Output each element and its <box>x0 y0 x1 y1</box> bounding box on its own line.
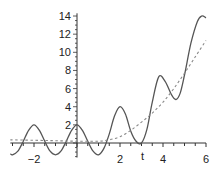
y-tick-label: 12 <box>59 28 71 40</box>
x-tick-label: −2 <box>28 153 41 165</box>
series-group <box>10 16 206 155</box>
y-tick-label: 2 <box>65 119 71 131</box>
y-tick-label: 14 <box>59 10 71 22</box>
y-tick-label: 10 <box>59 46 71 58</box>
x-tick-label: 6 <box>203 153 209 165</box>
line-chart: −2246t2468101214 <box>0 0 218 172</box>
y-tick-label: 4 <box>65 101 71 113</box>
series-trend <box>10 41 206 142</box>
x-tick-label: 2 <box>117 153 123 165</box>
y-tick-label: 6 <box>65 83 71 95</box>
x-axis-label: t <box>141 150 144 162</box>
y-tick-label: 8 <box>65 64 71 76</box>
x-tick-label: 4 <box>160 153 166 165</box>
